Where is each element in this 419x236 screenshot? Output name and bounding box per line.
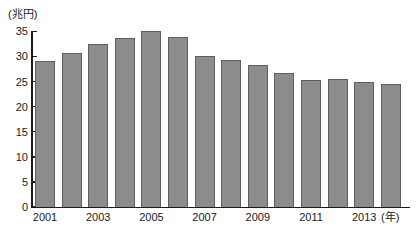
bar-chart: (兆円) 05101520253035 20012003200520072009… (0, 0, 419, 236)
bar-series (0, 0, 419, 236)
bar-2004 (115, 38, 135, 207)
bar-2009 (248, 65, 268, 207)
bar-2008 (221, 60, 241, 207)
bar-2005 (141, 31, 161, 207)
bar-2012 (328, 79, 348, 207)
bar-2013 (354, 82, 374, 207)
x-tick-label-2007: 2007 (192, 210, 216, 224)
bar-2011 (301, 80, 321, 207)
bar-2006 (168, 37, 188, 207)
x-axis-unit-label: (年) (381, 210, 399, 224)
bar-2007 (195, 56, 215, 207)
plot-area: 05101520253035 2001200320052007200920112… (0, 0, 419, 236)
x-tick-label-2005: 2005 (139, 210, 163, 224)
x-tick-label-2003: 2003 (86, 210, 110, 224)
bar-2010 (274, 73, 294, 207)
x-tick-label-2009: 2009 (246, 210, 270, 224)
x-tick-label-2001: 2001 (33, 210, 57, 224)
x-tick-label-2013: 2013 (352, 210, 376, 224)
bar-2002 (62, 53, 82, 207)
bar-2001 (35, 61, 55, 207)
bar-2014 (381, 84, 401, 207)
x-tick-label-2011: 2011 (299, 210, 323, 224)
bar-2003 (88, 44, 108, 207)
